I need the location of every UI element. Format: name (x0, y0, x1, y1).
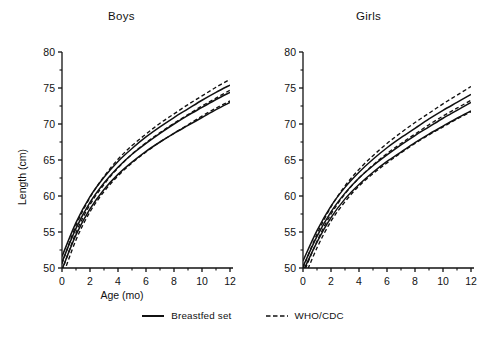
plot-area-girls: 50556065707580024681012 (243, 0, 486, 300)
curve-who-cdc-lower (62, 101, 230, 278)
curve-breastfed-set-median (62, 92, 230, 262)
y-tick-label: 50 (284, 262, 296, 274)
solid-line-icon (142, 312, 164, 320)
y-tick-label: 60 (43, 190, 55, 202)
x-tick-label: 4 (356, 275, 362, 287)
x-tick-label: 2 (328, 275, 334, 287)
x-tick-label: 8 (171, 275, 177, 287)
y-tick-label: 70 (284, 118, 296, 130)
x-tick-label: 10 (196, 275, 208, 287)
curve-breastfed-set-lower (62, 102, 230, 269)
curve-who-cdc-upper (62, 79, 230, 263)
y-tick-label: 50 (43, 262, 55, 274)
curve-breastfed-set-upper (303, 94, 471, 260)
panel-boys: Boys Length (cm) 50556065707580024681012… (0, 0, 243, 300)
curve-breastfed-set-median (303, 102, 471, 266)
x-tick-label: 10 (437, 275, 449, 287)
y-tick-label: 55 (284, 226, 296, 238)
x-tick-label: 0 (300, 275, 306, 287)
legend-label-breastfed: Breastfed set (171, 310, 231, 321)
y-tick-label: 65 (43, 154, 55, 166)
y-tick-label: 55 (43, 226, 55, 238)
x-tick-label: 12 (465, 275, 477, 287)
y-tick-label: 70 (43, 118, 55, 130)
x-tick-label: 0 (59, 275, 65, 287)
x-tick-label: 4 (115, 275, 121, 287)
x-tick-label: 8 (412, 275, 418, 287)
y-tick-label: 60 (284, 190, 296, 202)
curve-who-cdc-lower (303, 112, 471, 281)
y-tick-label: 75 (43, 82, 55, 94)
panel-girls: Girls Length (cm) 5055606570758002468101… (243, 0, 486, 300)
plot-area-boys: 50556065707580024681012 (0, 0, 243, 300)
growth-chart-figure: Boys Length (cm) 50556065707580024681012… (0, 0, 486, 341)
y-tick-label: 80 (43, 46, 55, 58)
curve-who-cdc-median (303, 100, 471, 274)
curve-group (62, 79, 230, 278)
y-tick-label: 80 (284, 46, 296, 58)
x-tick-label: 2 (87, 275, 93, 287)
x-tick-label: 6 (143, 275, 149, 287)
curve-who-cdc-median (62, 90, 230, 271)
legend-item-breastfed: Breastfed set (142, 310, 231, 321)
dashed-line-icon (266, 312, 288, 320)
legend-label-whocdc: WHO/CDC (295, 310, 344, 321)
legend: Breastfed set WHO/CDC (0, 310, 486, 321)
curve-breastfed-set-upper (62, 85, 230, 256)
x-tick-label: 6 (384, 275, 390, 287)
x-tick-label: 12 (224, 275, 236, 287)
y-tick-label: 65 (284, 154, 296, 166)
legend-item-whocdc: WHO/CDC (266, 310, 344, 321)
y-tick-label: 75 (284, 82, 296, 94)
curve-breastfed-set-lower (303, 111, 471, 272)
curve-group (303, 87, 471, 281)
x-axis-label-boys: Age (mo) (52, 289, 192, 301)
